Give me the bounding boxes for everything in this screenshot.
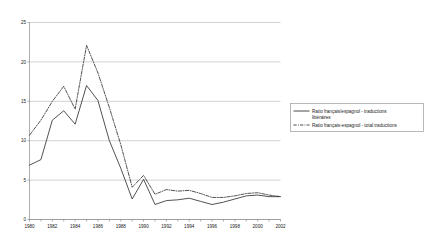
chart-legend: Ratio français/espagnol - traductions li…	[291, 104, 424, 132]
y-axis-tick-label: 25	[21, 20, 27, 25]
x-axis-tick-label: 2002	[275, 224, 286, 229]
x-axis-tick-label: 1992	[161, 224, 172, 229]
x-axis-tick-label: 1980	[24, 224, 35, 229]
legend-label-literary-line1: Ratio français/espagnol - traductions	[312, 109, 387, 114]
x-axis-tick-label: 1990	[138, 224, 149, 229]
x-axis-tick-label: 1984	[70, 224, 81, 229]
y-axis-tick-label: 20	[21, 60, 27, 65]
chart-figure: 0510152025 19801982198419861988199019921…	[0, 0, 427, 246]
legend-label-literary-line2: littéraires	[312, 115, 331, 120]
y-axis-tick-label: 15	[21, 99, 27, 104]
x-axis-tick-label: 1994	[184, 224, 195, 229]
y-axis-tick-label: 0	[23, 217, 26, 222]
x-axis-tick-label: 2000	[253, 224, 264, 229]
line-chart: 0510152025 19801982198419861988199019921…	[0, 0, 427, 246]
x-axis-tick-label: 1998	[230, 224, 241, 229]
x-axis-tick-label: 1988	[116, 224, 127, 229]
y-axis-tick-label: 5	[23, 178, 26, 183]
y-axis-tick-label: 10	[21, 138, 27, 143]
x-axis-tick-label: 1986	[93, 224, 104, 229]
x-axis-tick-label: 1996	[207, 224, 218, 229]
legend-label-total-line1: Ratio français-espagnol - total traducti…	[312, 123, 397, 128]
x-axis-tick-label: 1982	[47, 224, 58, 229]
